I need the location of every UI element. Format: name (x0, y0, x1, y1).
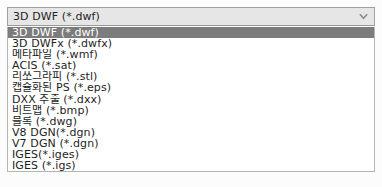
dropdown-option[interactable]: 블록 (*.dwg) (8, 116, 374, 127)
dropdown-option[interactable]: 3D DWF (*.dwf) (8, 27, 374, 38)
file-type-dropdown-list[interactable]: 3D DWF (*.dwf)3D DWFx (*.dwfx)메타파일 (*.wm… (7, 27, 375, 172)
dropdown-option[interactable]: 메타파일 (*.wmf) (8, 49, 374, 60)
dropdown-option[interactable]: IGES(*.iges) (8, 149, 374, 160)
dropdown-option[interactable]: 3D DWFx (*.dwfx) (8, 38, 374, 49)
dropdown-option[interactable]: 캡슐화된 PS (*.eps) (8, 82, 374, 93)
dropdown-option[interactable]: V7 DGN (*.dgn) (8, 138, 374, 149)
chevron-down-icon (359, 12, 368, 21)
combobox-dropdown-button[interactable] (352, 8, 374, 25)
file-type-combobox[interactable]: 3D DWF (*.dwf) (7, 7, 375, 26)
dropdown-option[interactable]: DXX 추출 (*.dxx) (8, 94, 374, 105)
dropdown-option[interactable]: V8 DGN(*.dgn) (8, 127, 374, 138)
dropdown-option[interactable]: 리쏘그라피 (*.stl) (8, 71, 374, 82)
file-type-combobox-screen: 3D DWF (*.dwf) 3D DWF (*.dwf)3D DWFx (*.… (0, 0, 382, 187)
dropdown-option[interactable]: 비트맵 (*.bmp) (8, 105, 374, 116)
combobox-selected-value: 3D DWF (*.dwf) (8, 11, 352, 22)
dropdown-option[interactable]: IGES (*.igs) (8, 160, 374, 171)
dropdown-option[interactable]: ACIS (*.sat) (8, 60, 374, 71)
